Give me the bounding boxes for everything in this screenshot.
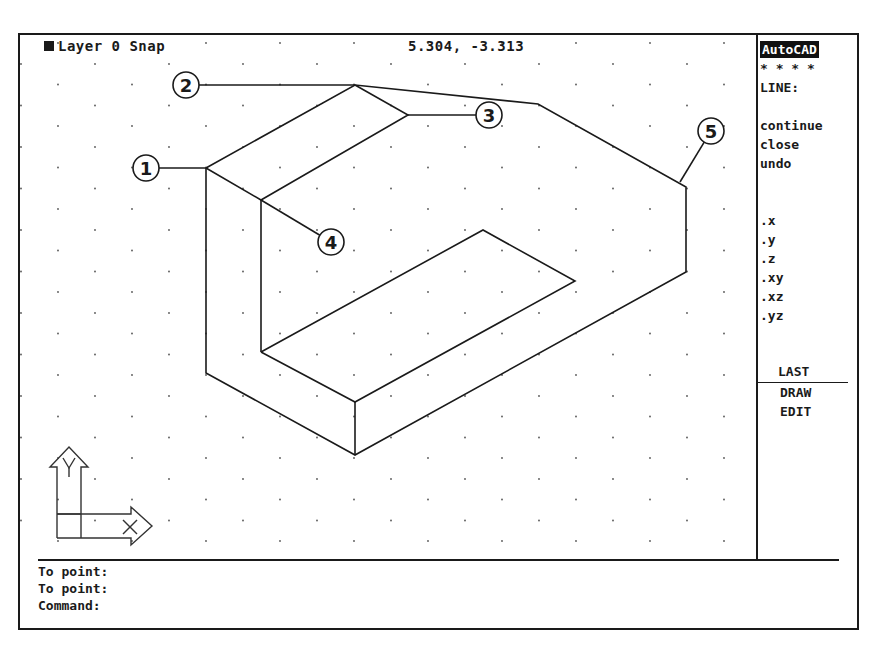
callout-2: 2 — [173, 72, 355, 98]
menu-filter-z[interactable]: .z — [760, 249, 856, 268]
menu-option-close[interactable]: close — [760, 135, 856, 154]
menu-title-autocad[interactable]: AutoCAD — [760, 41, 819, 58]
status-layer: Layer 0 Snap — [44, 38, 165, 54]
callout-3: 3 — [408, 102, 502, 128]
menu-option-undo[interactable]: undo — [760, 154, 856, 173]
command-input-line[interactable]: Command: — [38, 597, 108, 614]
callout-markers: 12345 — [133, 72, 724, 255]
menu-filter-x[interactable]: .x — [760, 211, 856, 230]
drawing-canvas[interactable]: 12345 — [0, 0, 871, 649]
coordinate-display: 5.304, -3.313 — [408, 38, 524, 54]
svg-text:5: 5 — [705, 121, 718, 142]
snap-grid — [20, 42, 725, 542]
command-area-divider — [38, 559, 839, 561]
menu-last[interactable]: LAST — [758, 363, 848, 383]
callout-1: 1 — [133, 155, 206, 181]
menu-draw[interactable]: DRAW — [760, 383, 856, 402]
isometric-part-drawing — [206, 85, 686, 455]
svg-text:3: 3 — [483, 105, 496, 126]
callout-5: 5 — [680, 118, 724, 182]
svg-text:1: 1 — [140, 158, 153, 179]
screen-menu: AutoCAD * * * * LINE: continue close und… — [760, 40, 856, 421]
command-history-line: To point: — [38, 563, 108, 580]
callout-4: 4 — [261, 200, 344, 255]
layer-color-swatch — [44, 41, 54, 51]
command-prompt-area[interactable]: To point: To point: Command: — [38, 563, 108, 614]
ucs-icon — [50, 447, 152, 545]
command-history-line: To point: — [38, 580, 108, 597]
svg-text:4: 4 — [325, 232, 338, 253]
menu-edit[interactable]: EDIT — [760, 402, 856, 421]
menu-command-line[interactable]: LINE: — [760, 78, 856, 97]
svg-text:2: 2 — [180, 75, 193, 96]
menu-filter-yz[interactable]: .yz — [760, 306, 856, 325]
layer-snap-label: Layer 0 Snap — [58, 38, 165, 54]
menu-option-continue[interactable]: continue — [760, 116, 856, 135]
screen-menu-divider — [756, 33, 758, 561]
menu-filter-xy[interactable]: .xy — [760, 268, 856, 287]
menu-stars[interactable]: * * * * — [760, 59, 856, 78]
menu-filter-xz[interactable]: .xz — [760, 287, 856, 306]
menu-filter-y[interactable]: .y — [760, 230, 856, 249]
